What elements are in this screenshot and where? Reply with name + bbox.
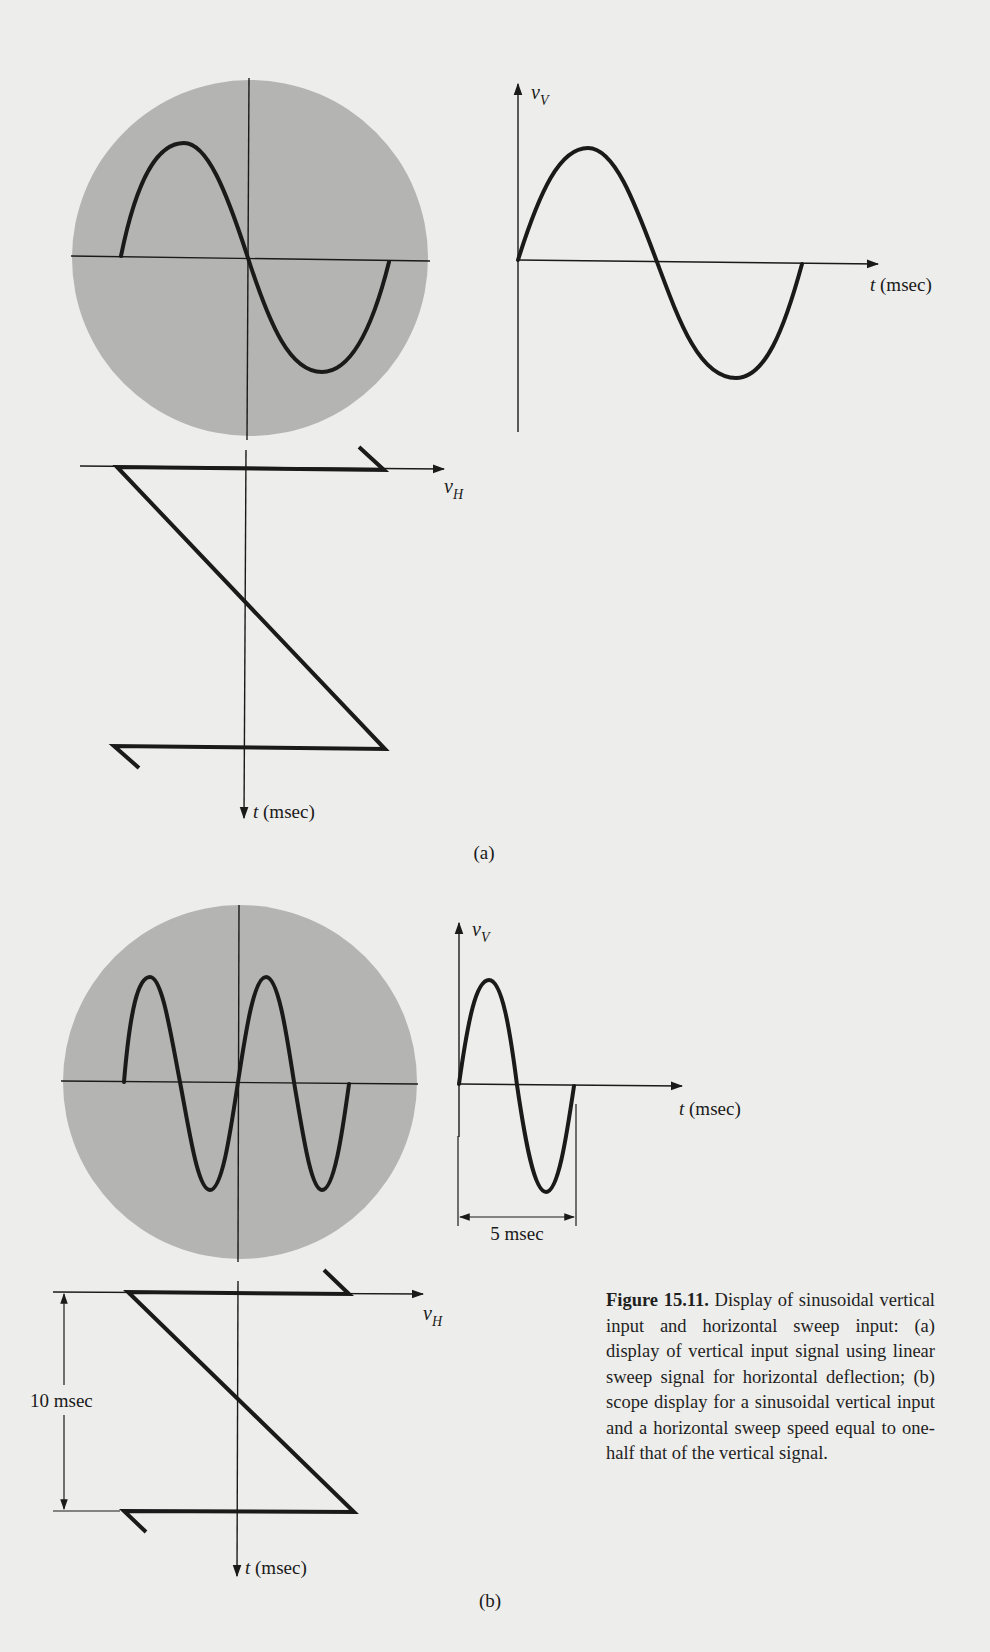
panel-label-a: (a) — [473, 842, 494, 864]
t-axis-label-a: t (msec) — [870, 274, 932, 296]
scope-screen-a — [71, 78, 430, 440]
sweep-trace-b — [124, 1270, 354, 1532]
vertical-signal-trace-b — [459, 980, 574, 1192]
panel-a: vV t (msec) vH t (msec) (a) — [71, 78, 932, 864]
sweep-plot-b: 10 msec vH t (msec) — [25, 1270, 443, 1579]
panel-label-b: (b) — [479, 1590, 501, 1612]
vh-axis-label-b: vH — [423, 1302, 443, 1329]
t-axis-label-sweep-a: t (msec) — [253, 801, 315, 823]
vv-axis-label-a: vV — [531, 81, 550, 108]
sweep-trace-a — [114, 447, 385, 768]
figure-caption: Figure 15.11. Display of sinusoidal vert… — [606, 1288, 935, 1467]
t-axis-label-b: t (msec) — [679, 1098, 741, 1120]
panel-b: 5 msec vV t (msec) 10 msec vH t (msec) (… — [25, 905, 741, 1612]
sweep-period-label-b: 10 msec — [30, 1390, 93, 1411]
vv-axis-label-b: vV — [472, 918, 491, 945]
figure-caption-text: Display of sinusoidal vertical input and… — [606, 1290, 935, 1463]
vh-axis-label-a: vH — [444, 475, 464, 502]
figure-number: Figure 15.11. — [606, 1290, 709, 1310]
sweep-plot-a: vH t (msec) — [80, 447, 464, 823]
period-label-b: 5 msec — [490, 1223, 543, 1244]
t-axis-label-sweep-b: t (msec) — [245, 1557, 307, 1579]
vertical-input-plot-a: vV t (msec) — [518, 81, 932, 432]
vertical-input-plot-b: 5 msec vV t (msec) — [458, 918, 741, 1244]
scope-screen-b — [61, 905, 418, 1262]
